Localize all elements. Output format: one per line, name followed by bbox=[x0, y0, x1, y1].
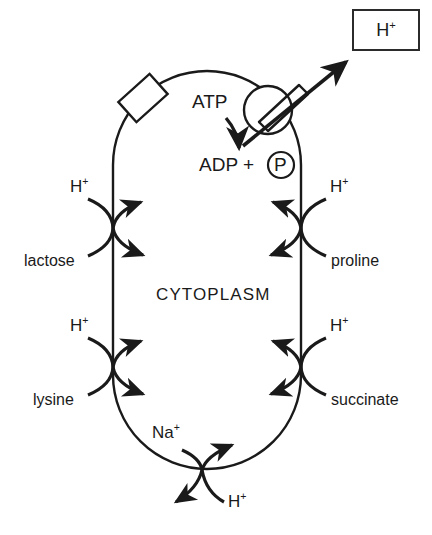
succinate-ion-label: H+ bbox=[330, 317, 348, 334]
diagram-canvas: H+ ATP ADP + P CYTOPLASM H+ lactose H+ l… bbox=[0, 0, 432, 535]
transporter-sodium-proton bbox=[176, 445, 232, 502]
antiport-proton-label: H+ bbox=[228, 493, 246, 510]
lactose-solute-label: lactose bbox=[24, 253, 75, 269]
sodium-ion-label: Na+ bbox=[152, 424, 180, 441]
transporter-proline bbox=[271, 199, 326, 256]
transporter-lactose bbox=[88, 199, 143, 256]
adp-label: ADP + bbox=[199, 155, 254, 174]
lactose-ion-label: H+ bbox=[70, 178, 88, 195]
lysine-ion-label: H+ bbox=[70, 317, 88, 334]
cytoplasm-label: CYTOPLASM bbox=[156, 286, 270, 303]
transporter-lysine bbox=[88, 338, 143, 395]
proline-ion-label: H+ bbox=[330, 178, 348, 195]
external-proton-box: H+ bbox=[352, 9, 420, 51]
atp-label: ATP bbox=[192, 92, 228, 111]
transporter-succinate bbox=[271, 338, 326, 395]
phosphate-label: P bbox=[274, 155, 287, 174]
atp-hydrolysis-arrow bbox=[226, 118, 239, 148]
succinate-solute-label: succinate bbox=[331, 392, 399, 408]
proline-solute-label: proline bbox=[331, 253, 379, 269]
membrane-protein-icon bbox=[118, 74, 167, 122]
lysine-solute-label: lysine bbox=[33, 392, 74, 408]
external-proton-label: H+ bbox=[376, 21, 396, 39]
